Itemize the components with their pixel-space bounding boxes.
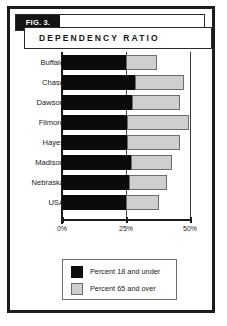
bar-segment-under18	[62, 175, 129, 190]
bar-segment-under18	[62, 75, 135, 90]
figure-root: FIG. 3. DEPENDENCY RATIO BuffaloChaseDaw…	[0, 0, 227, 326]
x-tick-label: 25%	[119, 225, 133, 232]
bar-category-label: Dawson	[4, 95, 64, 110]
x-tick-mark	[190, 217, 192, 223]
bar-segment-over65	[126, 55, 157, 70]
legend-label-over: Percent 65 and over	[90, 284, 156, 293]
bar-category-label: Filmore	[4, 115, 64, 130]
bar-category-label: Chase	[4, 75, 64, 90]
legend-label-under: Percent 18 and under	[90, 267, 160, 276]
bar-category-label: Buffalo	[4, 55, 64, 70]
bar-category-label: Hayes	[4, 135, 64, 150]
bar-segment-under18	[62, 195, 126, 210]
bar-category-label: Nebraska	[4, 175, 64, 190]
bar-category-label: USA	[4, 195, 64, 210]
x-tick-mark	[62, 217, 64, 223]
chart-legend: Percent 18 and under Percent 65 and over	[62, 259, 177, 300]
table-row: Madison	[0, 155, 227, 170]
bar-segment-under18	[62, 55, 126, 70]
legend-item-over: Percent 65 and over	[71, 282, 156, 295]
legend-item-under: Percent 18 and under	[71, 265, 160, 278]
bar-segment-over65	[127, 115, 188, 130]
bar-segment-over65	[131, 155, 172, 170]
bar-segment-over65	[132, 95, 179, 110]
bar-segment-under18	[62, 155, 131, 170]
table-row: Chase	[0, 75, 227, 90]
gray-swatch-icon	[71, 283, 83, 295]
black-swatch-icon	[71, 266, 83, 278]
bar-segment-over65	[129, 175, 167, 190]
bar-segment-under18	[62, 135, 127, 150]
x-tick-mark	[126, 217, 128, 223]
bar-category-label: Madison	[4, 155, 64, 170]
x-tick-label: 0%	[57, 225, 67, 232]
bar-segment-over65	[135, 75, 184, 90]
table-row: USA	[0, 195, 227, 210]
table-row: Nebraska	[0, 175, 227, 190]
x-tick-label: 50%	[183, 225, 197, 232]
bar-segment-under18	[62, 115, 127, 130]
table-row: Hayes	[0, 135, 227, 150]
bar-segment-over65	[127, 135, 179, 150]
table-row: Buffalo	[0, 55, 227, 70]
table-row: Filmore	[0, 115, 227, 130]
bar-segment-under18	[62, 95, 132, 110]
bar-segment-over65	[126, 195, 159, 210]
table-row: Dawson	[0, 95, 227, 110]
